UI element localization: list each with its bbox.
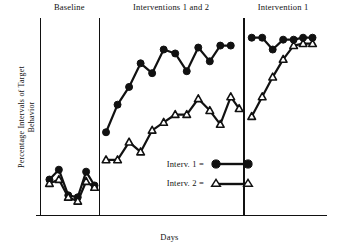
phase-label-interventions-1-and-2: Interventions 1 and 2	[99, 2, 244, 12]
filled-circle-marker	[172, 50, 179, 57]
phase-label-baseline: Baseline	[40, 2, 99, 12]
legend-item: Interv. 2 =	[136, 173, 258, 192]
plot-area: Baseline Interventions 1 and 2 Intervent…	[40, 18, 323, 215]
filled-circle-marker	[217, 42, 224, 49]
open-triangle-marker	[227, 93, 235, 100]
filled-circle-marker	[83, 168, 90, 175]
x-axis-line	[36, 215, 327, 216]
legend-label-interv-1: Interv. 1 =	[136, 159, 209, 169]
filled-circle-marker	[137, 60, 144, 67]
open-triangle-icon	[209, 176, 255, 190]
filled-circle-marker	[206, 58, 213, 65]
filled-circle-marker	[195, 44, 202, 51]
filled-circle-marker	[248, 34, 255, 41]
legend-item: Interv. 1 =	[136, 154, 258, 173]
filled-circle-marker	[269, 46, 276, 53]
open-triangle-marker	[171, 111, 179, 118]
open-triangle-marker	[102, 156, 110, 163]
filled-circle-marker	[103, 129, 110, 136]
x-axis-label: Days	[0, 232, 339, 242]
filled-circle-icon	[209, 157, 255, 171]
filled-circle-marker	[259, 34, 266, 41]
y-axis-label: Percentage Intervals of Target Behavior	[17, 22, 37, 212]
filled-circle-marker	[126, 83, 133, 90]
filled-circle-marker	[55, 166, 62, 173]
legend: Interv. 1 = Interv. 2 =	[136, 154, 258, 192]
filled-circle-marker	[280, 36, 287, 43]
phase-label-intervention-1: Intervention 1	[243, 2, 323, 12]
open-triangle-marker	[125, 138, 133, 145]
legend-label-interv-2: Interv. 2 =	[136, 178, 209, 188]
figure: Percentage Intervals of Target Behavior …	[0, 0, 339, 251]
filled-circle-marker	[160, 46, 167, 53]
filled-circle-marker	[114, 101, 121, 108]
open-triangle-marker	[194, 95, 202, 102]
filled-circle-marker	[183, 68, 190, 75]
filled-circle-marker	[227, 42, 234, 49]
filled-circle-marker	[149, 70, 156, 77]
